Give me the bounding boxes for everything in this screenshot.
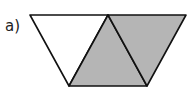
triangle-diagram xyxy=(0,0,194,97)
